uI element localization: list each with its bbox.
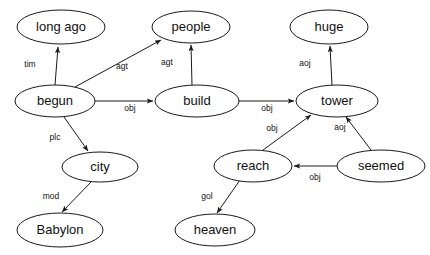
node-build[interactable]: build: [155, 85, 239, 117]
edge-label-begun-city: plc: [50, 132, 62, 142]
edges-layer: [55, 40, 371, 213]
edge-label-seemed-tower: aoj: [334, 122, 345, 132]
nodes-layer: long agopeoplehugebegunbuildtowercityrea…: [15, 10, 425, 247]
edge-seemed-tower: [346, 117, 371, 150]
edge-label-reach-heaven: gol: [201, 191, 212, 201]
edge-label-tower-huge: aoj: [299, 58, 310, 68]
node-huge[interactable]: huge: [290, 10, 368, 44]
node-people[interactable]: people: [152, 11, 230, 43]
edge-city-Babylon: [62, 181, 92, 212]
node-label-heaven: heaven: [194, 222, 237, 237]
semantic-network-diagram: long agopeoplehugebegunbuildtowercityrea…: [0, 0, 430, 255]
node-heaven[interactable]: heaven: [175, 214, 255, 246]
node-label-city: city: [90, 159, 110, 174]
edge-build-people: [191, 45, 192, 85]
edge-begun-long_ago: [55, 47, 58, 85]
node-label-Babylon: Babylon: [37, 222, 84, 237]
node-reach[interactable]: reach: [214, 150, 292, 182]
node-label-tower: tower: [321, 93, 353, 108]
edge-begun-city: [64, 117, 88, 151]
node-long_ago[interactable]: long ago: [17, 10, 105, 44]
node-label-seemed: seemed: [358, 158, 404, 173]
node-label-begun: begun: [37, 93, 73, 108]
edge-label-begun-build: obj: [124, 103, 135, 113]
node-label-long_ago: long ago: [36, 19, 86, 34]
node-label-people: people: [171, 19, 210, 34]
node-begun[interactable]: begun: [15, 85, 95, 117]
node-seemed[interactable]: seemed: [337, 150, 425, 182]
edge-label-city-Babylon: mod: [43, 191, 60, 201]
node-label-reach: reach: [237, 158, 270, 173]
edge-label-begun-people: agt: [116, 61, 128, 71]
edge-label-reach-tower: obj: [266, 123, 277, 133]
edge-label-build-tower: obj: [261, 103, 272, 113]
node-label-huge: huge: [315, 19, 344, 34]
edge-tower-huge: [330, 46, 332, 85]
diagram-canvas: long agopeoplehugebegunbuildtowercityrea…: [0, 0, 430, 255]
node-Babylon[interactable]: Babylon: [17, 213, 103, 247]
node-city[interactable]: city: [62, 152, 138, 182]
edge-label-begun-long_ago: tim: [24, 59, 35, 69]
edge-label-seemed-reach: obj: [309, 172, 320, 182]
edge-label-build-people: agt: [161, 57, 173, 67]
node-label-build: build: [183, 93, 210, 108]
node-tower[interactable]: tower: [296, 85, 378, 117]
edge-reach-heaven: [217, 180, 240, 213]
